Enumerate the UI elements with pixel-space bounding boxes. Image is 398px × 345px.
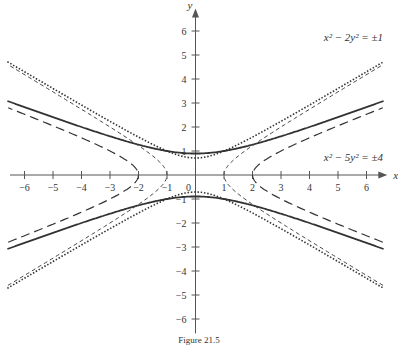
x-tick-label: −3 — [105, 182, 116, 193]
y-tick-label: 3 — [182, 98, 187, 109]
y-tick-label: 5 — [182, 50, 187, 61]
y-tick-label: −2 — [176, 218, 187, 229]
x-tick-label: 0 — [186, 182, 191, 193]
y-axis-arrow-icon — [192, 9, 199, 18]
y-tick-label: 1 — [182, 146, 187, 157]
x-tick-label: 6 — [364, 182, 369, 193]
x-tick-label: 5 — [336, 182, 341, 193]
y-tick-label: 4 — [182, 74, 187, 85]
axes — [10, 9, 387, 334]
y-tick-label: 6 — [182, 26, 187, 37]
figure-caption: Figure 21.5 — [178, 335, 220, 345]
x-axis-arrow-icon — [378, 172, 387, 179]
x-tick-label: 3 — [279, 182, 284, 193]
x-tick-label: 1 — [222, 182, 227, 193]
x-tick-label: −6 — [19, 182, 30, 193]
hyperbola-chart: xy−6−5−4−3−2−10123456−6−5−4−3−2−1123456x… — [0, 0, 398, 345]
y-axis-label: y — [187, 0, 193, 11]
y-tick-label: −3 — [176, 242, 187, 253]
equation-label: x² − 5y² = ±4 — [323, 151, 384, 163]
equation-label: x² − 2y² = ±1 — [323, 31, 383, 43]
y-tick-label: 2 — [182, 122, 187, 133]
y-tick-label: −1 — [176, 194, 187, 205]
labels: xy−6−5−4−3−2−10123456−6−5−4−3−2−1123456x… — [19, 0, 398, 324]
y-tick-label: −6 — [176, 314, 187, 325]
x-tick-label: 2 — [250, 182, 255, 193]
y-tick-label: −4 — [176, 266, 187, 277]
y-tick-label: −5 — [176, 290, 187, 301]
x-tick-label: −2 — [133, 182, 144, 193]
x-tick-label: −5 — [48, 182, 59, 193]
x-tick-label: 4 — [307, 182, 312, 193]
x-tick-label: −1 — [162, 182, 173, 193]
x-axis-label: x — [392, 169, 398, 181]
x-tick-label: −4 — [76, 182, 87, 193]
